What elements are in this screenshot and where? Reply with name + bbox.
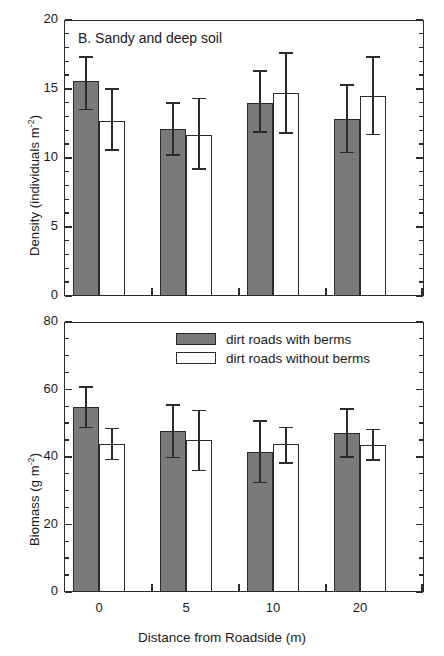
error-bar-cap xyxy=(279,427,293,429)
y-tick-minor-right xyxy=(419,338,423,339)
y-tick-minor-right xyxy=(419,541,423,542)
legend-swatch-without-berms xyxy=(176,352,216,364)
y-tick-label: 0 xyxy=(20,583,58,598)
y-tick-label: 60 xyxy=(20,381,58,396)
error-bar-cap xyxy=(166,457,180,459)
y-tick-minor-right xyxy=(419,355,423,356)
error-bar-cap xyxy=(253,420,267,422)
y-tick-minor xyxy=(65,372,69,373)
y-tick-minor xyxy=(65,422,69,423)
error-bar-line xyxy=(198,410,200,470)
error-bar-cap xyxy=(340,408,354,410)
y-tick-minor xyxy=(65,557,69,558)
legend-label: dirt roads without berms xyxy=(226,349,370,368)
y-tick-minor xyxy=(65,490,69,491)
y-tick-minor-right xyxy=(419,439,423,440)
y-tick-major xyxy=(65,321,72,323)
y-tick-minor-right xyxy=(419,507,423,508)
error-bar-cap xyxy=(79,386,93,388)
y-tick-minor xyxy=(65,338,69,339)
error-bar-cap xyxy=(279,462,293,464)
error-bar-line xyxy=(85,387,87,428)
x-tick-label: 10 xyxy=(233,600,313,615)
y-tick-minor-right xyxy=(419,574,423,575)
error-bar-cap xyxy=(340,456,354,458)
error-bar-cap xyxy=(192,470,206,472)
y-tick-minor xyxy=(65,541,69,542)
bar-without-berms xyxy=(273,444,299,593)
x-axis-title: Distance from Roadside (m) xyxy=(0,630,444,645)
bar-without-berms xyxy=(99,444,125,592)
error-bar-cap xyxy=(253,482,267,484)
error-bar-cap xyxy=(105,459,119,461)
y-tick-minor xyxy=(65,507,69,508)
y-tick-major xyxy=(65,591,72,593)
error-bar-cap xyxy=(105,428,119,430)
y-tick-major-right xyxy=(416,321,423,323)
bar-with-berms xyxy=(73,407,99,592)
error-bar-cap xyxy=(366,459,380,461)
x-tick xyxy=(238,584,240,591)
y-tick-minor xyxy=(65,574,69,575)
y-tick-minor-right xyxy=(419,372,423,373)
y-axis-label-exponent: -2 xyxy=(26,457,36,465)
y-tick-minor-right xyxy=(419,422,423,423)
error-bar-line xyxy=(346,409,348,457)
y-axis-label: Biomass (g m-2) xyxy=(26,453,42,546)
y-tick-major-right xyxy=(416,389,423,391)
error-bar-line xyxy=(372,429,374,460)
y-tick-minor-right xyxy=(419,490,423,491)
x-tick-label: 20 xyxy=(320,600,400,615)
x-tick-label: 5 xyxy=(146,600,226,615)
error-bar-line xyxy=(259,421,261,482)
error-bar-line xyxy=(172,405,174,457)
figure-root: 05101520Density (individuals m-2)B. Sand… xyxy=(0,0,444,656)
bar-without-berms xyxy=(360,445,386,592)
x-tick xyxy=(325,584,327,591)
y-tick-major xyxy=(65,389,72,391)
y-axis-label-text: Biomass (g m xyxy=(27,465,42,546)
error-bar-cap xyxy=(79,427,93,429)
y-tick-minor xyxy=(65,355,69,356)
error-bar-line xyxy=(285,427,287,462)
y-axis-label-paren: ) xyxy=(27,453,42,457)
x-tick xyxy=(421,584,423,591)
error-bar-cap xyxy=(192,410,206,412)
y-tick-major xyxy=(65,524,72,526)
y-tick-major-right xyxy=(416,591,423,593)
y-tick-minor xyxy=(65,473,69,474)
legend-swatch-with-berms xyxy=(176,333,216,345)
error-bar-cap xyxy=(166,404,180,406)
y-tick-minor xyxy=(65,406,69,407)
error-bar-line xyxy=(111,429,113,460)
y-tick-major-right xyxy=(416,456,423,458)
y-tick-minor xyxy=(65,439,69,440)
y-tick-minor-right xyxy=(419,406,423,407)
y-tick-label: 80 xyxy=(20,313,58,328)
y-tick-minor-right xyxy=(419,473,423,474)
plot-panel-biomass: 020406080Biomass (g m-2) xyxy=(0,0,444,656)
legend-label: dirt roads with berms xyxy=(226,330,351,349)
x-tick xyxy=(151,584,153,591)
x-tick-label: 0 xyxy=(59,600,139,615)
y-tick-major xyxy=(65,456,72,458)
y-tick-minor-right xyxy=(419,557,423,558)
error-bar-cap xyxy=(366,429,380,431)
y-tick-major-right xyxy=(416,524,423,526)
